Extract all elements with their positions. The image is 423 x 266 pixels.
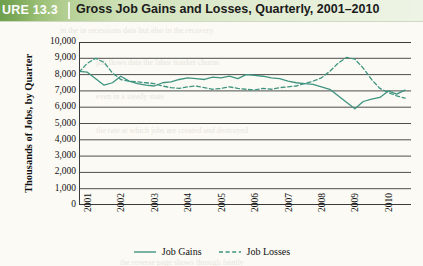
y-axis-tick-label: 4,000 [40,135,76,145]
y-axis-tick-label: 7,000 [40,86,76,96]
x-axis-tick-label: 2007 [284,193,294,212]
x-axis-tick-label: 2003 [150,193,160,212]
chart-plot-area [79,42,411,205]
x-axis-tick-label: 2010 [384,193,394,212]
bleed-text-1: in the in recessions data but also in th… [60,26,214,35]
y-axis-tick-label: 5,000 [40,119,76,129]
y-axis-tick-label: 0 [40,200,76,210]
x-axis-tick-label: 2001 [83,193,93,212]
y-axis-tick-label: 6,000 [40,102,76,112]
y-axis-tick-label: 9,000 [40,53,76,63]
x-axis-tick-label: 2004 [183,193,193,212]
chart-legend: Job Gains Job Losses [0,246,423,257]
legend-swatch-solid-icon [133,248,157,256]
y-axis-tick-label: 10,000 [40,37,76,47]
x-axis-tick-label: 2002 [116,193,126,212]
legend-entry-job-gains: Job Gains [133,246,202,257]
x-axis-tick-label: 2008 [317,193,327,212]
x-axis-tick-label: 2009 [350,193,360,212]
figure-container: in the in recessions data but also in th… [0,0,423,266]
x-axis-tick-label: 2006 [250,193,260,212]
y-axis-tick-label: 1,000 [40,184,76,194]
legend-swatch-dashed-icon [218,248,242,256]
y-axis-tick-label: 3,000 [40,151,76,161]
y-axis-tick-labels: 10,0009,0008,0007,0006,0005,0004,0003,00… [38,0,76,266]
y-axis-title: Thousands of Jobs, by Quarter [23,44,34,204]
x-axis-tick-label: 2005 [217,193,227,212]
y-axis-tick-label: 8,000 [40,70,76,80]
plot-frame [79,42,411,205]
legend-label-job-losses: Job Losses [247,246,291,257]
figure-title: Gross Job Gains and Losses, Quarterly, 2… [76,2,379,16]
y-axis-tick-label: 2,000 [40,167,76,177]
legend-entry-job-losses: Job Losses [218,246,291,257]
legend-label-job-gains: Job Gains [162,246,202,257]
bleed-text-5: the reverse page shows through faintly [120,258,244,266]
